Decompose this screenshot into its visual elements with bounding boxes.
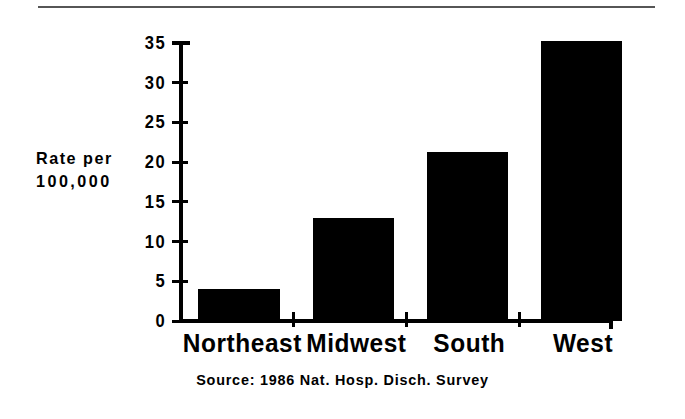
bar-south xyxy=(427,152,508,321)
y-axis-tick-label: 5 xyxy=(127,272,166,290)
x-axis-tick xyxy=(405,312,408,327)
y-axis-tick xyxy=(172,200,188,203)
y-axis-tick xyxy=(172,320,188,323)
y-axis-tick xyxy=(172,240,188,243)
y-axis-tick-label-wrap: 25 xyxy=(116,113,166,131)
category-label-midwest: Midwest xyxy=(307,327,407,359)
category-label-south: South xyxy=(434,327,506,359)
y-axis-tick xyxy=(172,42,188,45)
y-axis-title-line-1: Rate per xyxy=(36,147,150,170)
y-axis-tick-label: 10 xyxy=(127,233,166,251)
category-label-west: West xyxy=(553,327,613,359)
y-axis-tick xyxy=(172,161,188,164)
x-axis-tick xyxy=(518,312,521,327)
y-axis-tick xyxy=(172,280,188,283)
y-axis-title: Rate per 100,000 xyxy=(36,147,150,193)
y-axis-tick xyxy=(172,81,188,84)
y-axis-title-line-2: 100,000 xyxy=(36,170,150,193)
y-axis-tick-label: 15 xyxy=(127,193,166,211)
y-axis-tick-label: 35 xyxy=(127,34,166,52)
bar-west xyxy=(541,41,622,321)
y-axis-tick-label-wrap: 15 xyxy=(116,193,166,211)
bar-midwest xyxy=(313,218,394,321)
source-note: Source: 1986 Nat. Hosp. Disch. Survey xyxy=(14,371,672,388)
y-axis-tick xyxy=(172,121,188,124)
bar-chart-figure: 05101520253035 Rate per 100,000 Northeas… xyxy=(0,0,685,419)
y-axis-tick-label: 25 xyxy=(127,113,166,131)
y-axis-tick-label-wrap: 10 xyxy=(116,233,166,251)
y-axis-tick-label-wrap: 35 xyxy=(116,34,166,52)
bar-northeast xyxy=(198,289,280,321)
category-label-northeast: Northeast xyxy=(183,327,302,359)
y-axis-tick-label: 30 xyxy=(127,74,166,92)
x-axis-category-labels: NortheastMidwestSouthWest xyxy=(150,327,650,361)
y-axis-tick-label-wrap: 30 xyxy=(116,74,166,92)
x-axis-tick xyxy=(292,312,295,327)
y-axis-tick-label-wrap: 5 xyxy=(116,272,166,290)
